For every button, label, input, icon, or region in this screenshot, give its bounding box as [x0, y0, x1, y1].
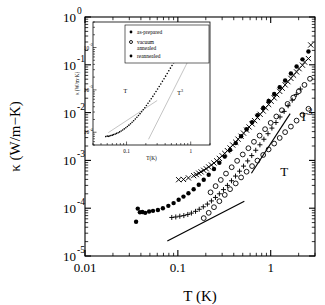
data-point [306, 49, 310, 53]
data-point [105, 136, 107, 138]
data-point [131, 121, 133, 123]
inset-legend-label: as-prepared [137, 29, 162, 35]
inset-y-axis-label: κ (W/m·K) [74, 72, 81, 95]
data-point [168, 70, 170, 72]
y-tick-label: 10 [63, 58, 76, 73]
data-point [139, 113, 141, 115]
data-point [136, 206, 140, 210]
x-tick-label: 0.01 [74, 260, 97, 275]
data-point [161, 206, 165, 210]
data-point [274, 114, 279, 119]
x-axis-label: T (K) [183, 288, 216, 305]
data-point [289, 71, 293, 75]
y-tick-labels: 10010-110-210-310-410-5 [63, 6, 85, 264]
y-tick-exponent: -1 [77, 54, 85, 64]
data-point [181, 194, 185, 198]
data-point [152, 96, 154, 98]
inset-y-tick-exponent: -4 [90, 128, 93, 132]
inset-legend-label: annealed [137, 45, 156, 51]
data-point [128, 124, 130, 126]
y-axis-label: κ (W/m−K) [7, 101, 24, 172]
data-point [130, 123, 132, 125]
data-point [163, 78, 165, 80]
data-point [186, 191, 190, 195]
data-point [202, 177, 206, 181]
data-point [147, 209, 151, 213]
data-point [135, 118, 137, 120]
data-point [162, 81, 164, 83]
data-point [154, 93, 156, 95]
data-point [191, 187, 195, 191]
data-point [149, 100, 151, 102]
data-point [119, 131, 121, 133]
data-point [123, 128, 125, 130]
data-point [294, 118, 299, 123]
data-point [213, 184, 218, 189]
data-point [138, 115, 140, 117]
data-point [228, 187, 233, 192]
data-point [157, 88, 159, 90]
data-point [114, 133, 116, 135]
data-point [122, 129, 124, 131]
data-point [171, 65, 173, 67]
y-tick-exponent: -5 [77, 245, 85, 255]
data-point [144, 107, 146, 109]
data-point [208, 190, 213, 195]
data-point [222, 192, 227, 197]
data-point [117, 132, 119, 134]
y-tick-label: 10 [63, 106, 76, 121]
inset-legend: as-preparedvacuumannealedreannealed [125, 25, 209, 63]
data-point [155, 91, 157, 93]
data-point [134, 220, 138, 224]
data-point [302, 82, 307, 87]
series-vacuum annealed [201, 76, 312, 220]
inset-plot: 0.1110-210-310-4T(K)κ (W/m·K)TT3as-prepa… [74, 22, 210, 162]
data-point [146, 105, 148, 107]
data-point [142, 109, 144, 111]
y-tick-exponent: -3 [77, 149, 85, 159]
data-point [207, 173, 211, 177]
data-point [113, 134, 115, 136]
data-point [272, 141, 277, 146]
inset-power-exponent: 3 [181, 88, 183, 93]
inset-x-tick-label: 0.1 [123, 148, 130, 154]
data-point [110, 135, 112, 137]
data-point [116, 133, 118, 135]
data-point [252, 139, 257, 144]
data-point [170, 67, 172, 69]
data-point [257, 133, 262, 138]
data-point [150, 98, 152, 100]
inset-x-tick-label: 1 [189, 148, 192, 154]
data-point [233, 181, 238, 186]
data-point [197, 183, 201, 187]
data-point [151, 209, 155, 213]
data-point [239, 175, 244, 180]
power-law-label: T [280, 164, 288, 179]
data-point [147, 103, 149, 105]
power-law-exponent: 3 [308, 107, 313, 117]
data-point [130, 31, 133, 34]
data-point [235, 158, 240, 163]
data-point [156, 208, 160, 212]
data-point [206, 210, 211, 215]
data-point [160, 83, 162, 85]
data-point [130, 55, 133, 58]
data-point [166, 204, 170, 208]
data-point [141, 111, 143, 113]
x-tick-label: 0.1 [170, 260, 186, 275]
x-tick-label: 1 [267, 260, 274, 275]
data-point [224, 171, 229, 176]
data-point [277, 136, 282, 141]
y-tick-exponent: 0 [77, 6, 82, 16]
data-point [288, 124, 293, 129]
power-law-label: T [300, 109, 308, 124]
figure-root: 0.010.1110010-110-210-310-410-5T (K)κ (W… [0, 0, 325, 305]
data-point [136, 117, 138, 119]
data-point [240, 152, 245, 157]
data-point [250, 164, 255, 169]
y-tick-label: 10 [63, 249, 76, 264]
data-point [308, 76, 313, 81]
data-point [244, 169, 249, 174]
y-tick-label: 10 [63, 201, 76, 216]
thermal-conductivity-plot: 0.010.1110010-110-210-310-410-5T (K)κ (W… [0, 0, 325, 305]
